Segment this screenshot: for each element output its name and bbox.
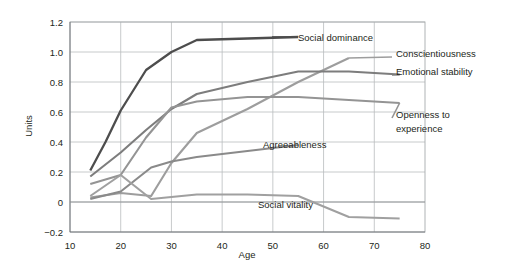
x-tick-label: 50 [268, 240, 279, 251]
x-axis-title: Age [239, 249, 256, 260]
y-tick-label: 0.8 [50, 77, 63, 88]
y-tick-label: −0.2 [44, 227, 63, 238]
leader-line [349, 57, 392, 58]
series-label-openness-to-experience: Openness to [396, 109, 450, 120]
x-tick-label: 70 [369, 240, 380, 251]
y-tick-label: 0.2 [50, 167, 63, 178]
series-label-social-dominance: Social dominance [298, 32, 373, 43]
x-tick-label: 80 [420, 240, 431, 251]
x-tick-label: 60 [318, 240, 329, 251]
x-tick-label: 40 [217, 240, 228, 251]
line-chart: 1020304050607080 −0.200.20.40.60.81.01.2… [0, 0, 508, 273]
x-tick-label: 30 [166, 240, 177, 251]
y-tick-label: 0.6 [50, 107, 63, 118]
y-tick-label: 1.2 [50, 17, 63, 28]
series-label-conscientiousness: Conscientiousness [396, 48, 476, 59]
series-label-openness-to-experience: experience [396, 123, 442, 134]
y-axis-title: Units [23, 115, 34, 137]
chart-canvas: 1020304050607080 −0.200.20.40.60.81.01.2… [0, 0, 508, 273]
series-label-agreeableness: Agreeableness [263, 139, 327, 150]
y-tick-label: 0 [58, 197, 63, 208]
x-tick-label: 10 [65, 240, 76, 251]
series-label-emotional-stability: Emotional stability [396, 66, 473, 77]
x-tick-label: 20 [115, 240, 126, 251]
y-tick-label: 1.0 [50, 47, 63, 58]
y-tick-label: 0.4 [50, 137, 63, 148]
series-label-social-vitality: Social vitality [258, 199, 313, 210]
